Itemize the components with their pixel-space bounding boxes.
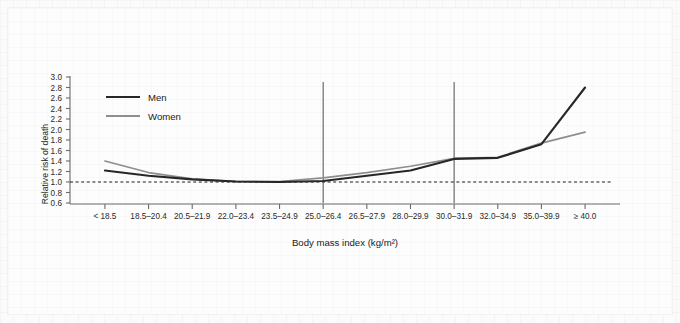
figure-page: Relative risk of death 3.02.82.62.42.22.… bbox=[0, 0, 680, 323]
y-tick-label: 0.8 bbox=[51, 189, 63, 198]
reference-lines-bmi bbox=[323, 82, 454, 203]
y-tick-label: 1.2 bbox=[51, 168, 63, 177]
legend-label-men: Men bbox=[148, 92, 167, 103]
y-tick-label: 1.6 bbox=[51, 147, 63, 156]
x-tick-label: 22.0–23.4 bbox=[218, 212, 255, 221]
x-tick-label: 23.5–24.9 bbox=[261, 212, 298, 221]
y-tick-label: 2.6 bbox=[51, 94, 63, 103]
x-tick-label: 20.5–21.9 bbox=[174, 212, 211, 221]
y-tick-label: 2.0 bbox=[51, 126, 63, 135]
series-line-women bbox=[105, 132, 585, 181]
x-tick-label: 30.0–31.9 bbox=[436, 212, 473, 221]
y-axis-title: Relative risk of death bbox=[40, 124, 50, 204]
x-tick-label: 26.5–27.9 bbox=[349, 212, 386, 221]
legend-label-women: Women bbox=[148, 111, 181, 122]
series-line-men bbox=[105, 88, 585, 183]
figure-card: Relative risk of death 3.02.82.62.42.22.… bbox=[8, 8, 672, 314]
y-tick-label: 0.6 bbox=[51, 199, 63, 208]
x-tick-label: 28.0–29.9 bbox=[392, 212, 429, 221]
y-axis-ticks: 3.02.82.62.42.22.01.81.61.41.21.00.80.6 bbox=[51, 73, 70, 208]
y-tick-label: 2.8 bbox=[51, 84, 63, 93]
y-tick-label: 1.0 bbox=[51, 178, 63, 187]
x-tick-label: 18.5–20.4 bbox=[130, 212, 167, 221]
x-axis-ticks: < 18.518.5–20.420.5–21.922.0–23.423.5–24… bbox=[93, 204, 596, 221]
x-tick-label: ≥ 40.0 bbox=[574, 212, 597, 221]
y-tick-label: 2.2 bbox=[51, 115, 63, 124]
y-tick-label: 3.0 bbox=[51, 73, 63, 82]
x-tick-label: 25.0–26.4 bbox=[305, 212, 342, 221]
x-tick-label: < 18.5 bbox=[93, 212, 116, 221]
relative-risk-of-death-line-chart: Relative risk of death 3.02.82.62.42.22.… bbox=[8, 8, 672, 314]
y-tick-label: 1.4 bbox=[51, 157, 63, 166]
chart-legend: Men Women bbox=[106, 92, 181, 122]
y-tick-label: 2.4 bbox=[51, 105, 63, 114]
y-tick-label: 1.8 bbox=[51, 136, 63, 145]
x-tick-label: 35.0–39.9 bbox=[523, 212, 560, 221]
y-axis-title-text: Relative risk of death bbox=[40, 124, 50, 204]
x-tick-label: 32.0–34.9 bbox=[480, 212, 517, 221]
x-axis-title: Body mass index (kg/m²) bbox=[292, 237, 398, 248]
